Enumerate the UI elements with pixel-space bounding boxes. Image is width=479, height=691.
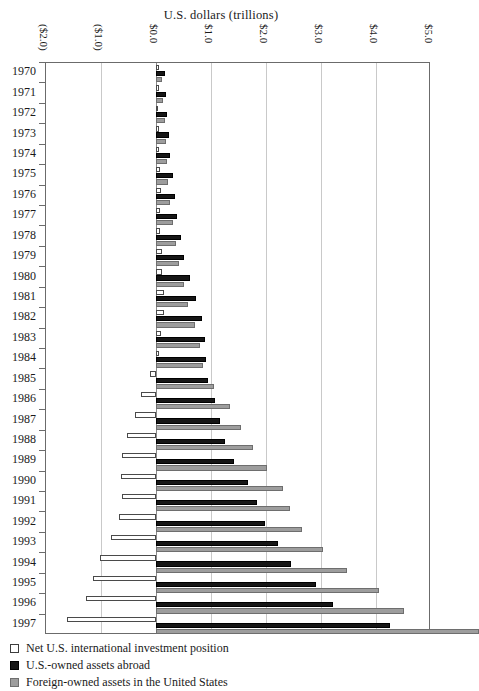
y-axis-tick xyxy=(39,552,45,553)
y-axis-year-label: 1988 xyxy=(0,432,36,447)
y-axis-year-label: 1993 xyxy=(0,534,36,549)
y-axis-tick xyxy=(39,123,45,124)
bar-net-position xyxy=(121,474,156,479)
bar-foreign-assets-in-us xyxy=(156,547,323,552)
liabilities-swatch xyxy=(10,678,19,687)
y-axis-tick xyxy=(39,532,45,533)
y-axis-tick xyxy=(39,511,45,512)
bar-us-assets-abroad xyxy=(156,112,167,117)
y-axis-tick xyxy=(39,246,45,247)
bar-net-position xyxy=(156,188,161,193)
y-axis-year-label: 1984 xyxy=(0,350,36,365)
bar-us-assets-abroad xyxy=(156,194,175,199)
bar-net-position xyxy=(156,147,159,152)
bar-net-position xyxy=(135,412,156,417)
chart-legend: Net U.S. international investment positi… xyxy=(10,640,440,691)
y-axis-year-label: 1973 xyxy=(0,126,36,141)
x-tick-label: $5.0 xyxy=(423,24,435,43)
net-swatch xyxy=(10,644,19,653)
bar-us-assets-abroad xyxy=(156,582,316,587)
y-axis-year-label: 1981 xyxy=(0,289,36,304)
bar-foreign-assets-in-us xyxy=(156,527,302,532)
y-axis-year-label: 1987 xyxy=(0,412,36,427)
y-axis-tick xyxy=(39,471,45,472)
y-axis-year-label: 1980 xyxy=(0,269,36,284)
bar-us-assets-abroad xyxy=(156,623,390,628)
y-axis-year-label: 1997 xyxy=(0,616,36,631)
y-axis-tick xyxy=(39,450,45,451)
legend-item: U.S.-owned assets abroad xyxy=(10,657,440,674)
bar-foreign-assets-in-us xyxy=(156,425,241,430)
bar-foreign-assets-in-us xyxy=(156,322,195,327)
bar-us-assets-abroad xyxy=(156,480,248,485)
bar-net-position xyxy=(122,453,156,458)
bar-us-assets-abroad xyxy=(156,173,173,178)
gridline xyxy=(376,63,377,633)
bar-net-position xyxy=(67,617,156,622)
y-axis-year-label: 1991 xyxy=(0,493,36,508)
bar-us-assets-abroad xyxy=(156,398,215,403)
y-axis-year-label: 1996 xyxy=(0,595,36,610)
y-axis-tick xyxy=(39,573,45,574)
bar-us-assets-abroad xyxy=(156,357,206,362)
x-tick-label: $1.0 xyxy=(203,24,215,43)
bar-us-assets-abroad xyxy=(156,602,333,607)
bar-net-position xyxy=(156,85,159,90)
bar-foreign-assets-in-us xyxy=(156,200,170,205)
bar-net-position xyxy=(156,167,160,172)
legend-label: U.S.-owned assets abroad xyxy=(26,658,150,673)
bar-foreign-assets-in-us xyxy=(156,629,479,634)
bar-foreign-assets-in-us xyxy=(156,139,166,144)
bar-foreign-assets-in-us xyxy=(156,118,165,123)
legend-item: Net U.S. international investment positi… xyxy=(10,640,440,657)
bar-foreign-assets-in-us xyxy=(156,302,188,307)
bar-us-assets-abroad xyxy=(156,214,177,219)
bar-us-assets-abroad xyxy=(156,71,165,76)
y-axis-tick xyxy=(39,103,45,104)
legend-label: Foreign-owned assets in the United State… xyxy=(26,675,228,690)
bar-foreign-assets-in-us xyxy=(156,343,200,348)
bar-net-position xyxy=(93,576,156,581)
y-axis-year-label: 1977 xyxy=(0,207,36,222)
bar-foreign-assets-in-us xyxy=(156,506,290,511)
bar-net-position xyxy=(156,65,159,70)
y-axis-tick xyxy=(39,144,45,145)
y-axis-year-label: 1989 xyxy=(0,452,36,467)
y-axis-year-label: 1990 xyxy=(0,473,36,488)
bar-foreign-assets-in-us xyxy=(156,568,347,573)
bar-us-assets-abroad xyxy=(156,275,190,280)
bar-us-assets-abroad xyxy=(156,316,202,321)
y-axis-tick xyxy=(39,491,45,492)
bar-net-position xyxy=(156,228,160,233)
legend-item: Foreign-owned assets in the United State… xyxy=(10,674,440,691)
bar-foreign-assets-in-us xyxy=(156,261,179,266)
bar-net-position xyxy=(119,514,156,519)
bar-foreign-assets-in-us xyxy=(156,282,184,287)
bar-foreign-assets-in-us xyxy=(156,465,267,470)
y-axis-year-label: 1985 xyxy=(0,371,36,386)
bar-foreign-assets-in-us xyxy=(156,98,163,103)
bar-us-assets-abroad xyxy=(156,296,196,301)
bar-foreign-assets-in-us xyxy=(156,77,162,82)
bar-foreign-assets-in-us xyxy=(156,241,176,246)
bar-us-assets-abroad xyxy=(156,235,181,240)
plot-area xyxy=(45,62,430,634)
bar-net-position xyxy=(122,494,156,499)
y-axis-year-label: 1983 xyxy=(0,330,36,345)
bar-foreign-assets-in-us xyxy=(156,608,404,613)
y-axis-tick xyxy=(39,348,45,349)
y-axis-year-label: 1971 xyxy=(0,85,36,100)
y-axis-tick xyxy=(39,287,45,288)
y-axis-year-label: 1970 xyxy=(0,64,36,79)
bar-net-position xyxy=(156,310,164,315)
y-axis-tick xyxy=(39,307,45,308)
bar-net-position xyxy=(156,126,159,131)
bar-us-assets-abroad xyxy=(156,337,205,342)
bar-foreign-assets-in-us xyxy=(156,159,167,164)
bar-foreign-assets-in-us xyxy=(156,384,214,389)
bar-foreign-assets-in-us xyxy=(156,363,203,368)
bar-us-assets-abroad xyxy=(156,521,265,526)
bar-net-position xyxy=(156,351,159,356)
y-axis-year-label: 1972 xyxy=(0,105,36,120)
